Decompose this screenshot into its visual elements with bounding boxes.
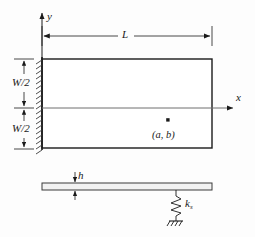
- fixed-support-hatching: [36, 57, 42, 154]
- spring-support: [167, 190, 183, 226]
- spring-stiffness-label: ks: [185, 198, 193, 211]
- plate-side-view: [42, 183, 212, 190]
- width-dimensions: [14, 59, 34, 149]
- spring-stiffness-subscript: s: [190, 203, 193, 211]
- plate-diagram: y x L W/2 W/2 (a, b) h ks: [0, 0, 255, 237]
- spring-coil: [171, 196, 181, 216]
- point-marker-ab: [166, 118, 169, 121]
- y-axis-label: y: [47, 11, 52, 22]
- thickness-label: h: [78, 170, 84, 181]
- half-width-bottom-label: W/2: [12, 123, 30, 134]
- plate-outline: [42, 59, 212, 148]
- x-axis-label: x: [236, 92, 241, 103]
- half-width-top-label: W/2: [12, 77, 30, 88]
- plate-thickness-bar: [42, 183, 212, 190]
- plate-top-view: [42, 59, 212, 148]
- length-label: L: [122, 29, 128, 40]
- point-label-ab: (a, b): [152, 130, 175, 141]
